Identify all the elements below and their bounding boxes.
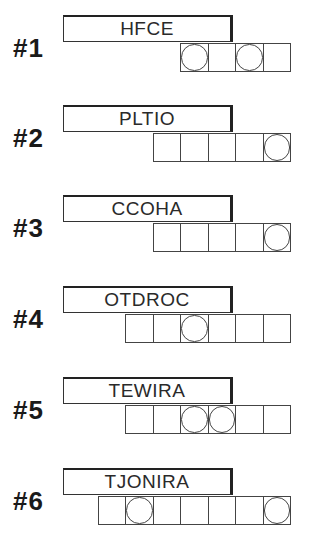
- puzzle-3: #3 CCOHA: [0, 195, 311, 255]
- answer-cell[interactable]: [153, 405, 182, 434]
- answer-cell-circled[interactable]: [125, 496, 154, 525]
- puzzle-1: #1 HFCE: [0, 15, 311, 75]
- answer-cell[interactable]: [263, 405, 292, 434]
- answer-cells: [180, 43, 291, 72]
- puzzle-4: #4 OTDROC: [0, 286, 311, 346]
- answer-cell-circled[interactable]: [180, 43, 209, 72]
- answer-cell[interactable]: [153, 133, 182, 162]
- answer-cell[interactable]: [153, 496, 182, 525]
- answer-cell[interactable]: [180, 496, 209, 525]
- circle-marker-icon: [181, 44, 208, 71]
- answer-cell-circled[interactable]: [263, 223, 292, 252]
- answer-cell[interactable]: [208, 133, 237, 162]
- circle-marker-icon: [181, 406, 208, 433]
- answer-cell[interactable]: [235, 314, 264, 343]
- puzzle-number: #1: [13, 35, 44, 61]
- circle-marker-icon: [126, 497, 153, 524]
- answer-cell-circled[interactable]: [208, 405, 237, 434]
- answer-cells: [125, 405, 291, 434]
- puzzle-number: #2: [13, 125, 44, 151]
- answer-cell-circled[interactable]: [235, 43, 264, 72]
- circle-marker-icon: [264, 497, 291, 524]
- answer-cell-circled[interactable]: [263, 496, 292, 525]
- answer-cell-circled[interactable]: [263, 133, 292, 162]
- scrambled-word: OTDROC: [63, 286, 233, 313]
- circle-marker-icon: [209, 406, 236, 433]
- answer-cell[interactable]: [235, 223, 264, 252]
- circle-marker-icon: [236, 44, 263, 71]
- answer-cell[interactable]: [208, 223, 237, 252]
- puzzle-2: #2 PLTIO: [0, 105, 311, 165]
- answer-cell[interactable]: [235, 133, 264, 162]
- puzzle-5: #5 TEWIRA: [0, 377, 311, 437]
- puzzle-6: #6 TJONIRA: [0, 468, 311, 528]
- puzzle-number: #4: [13, 306, 44, 332]
- scrambled-word: PLTIO: [63, 105, 233, 132]
- circle-marker-icon: [264, 134, 291, 161]
- answer-cell[interactable]: [153, 314, 182, 343]
- answer-cell[interactable]: [208, 43, 237, 72]
- answer-cells: [98, 496, 292, 525]
- puzzle-number: #5: [13, 397, 44, 423]
- answer-cell-circled[interactable]: [180, 405, 209, 434]
- scrambled-word: TJONIRA: [63, 468, 233, 495]
- answer-cell[interactable]: [125, 405, 154, 434]
- answer-cell[interactable]: [208, 314, 237, 343]
- answer-cell[interactable]: [180, 223, 209, 252]
- scrambled-word: TEWIRA: [63, 377, 233, 404]
- scrambled-word: CCOHA: [63, 195, 233, 222]
- answer-cell[interactable]: [263, 314, 292, 343]
- answer-cell[interactable]: [125, 314, 154, 343]
- answer-cell[interactable]: [235, 405, 264, 434]
- puzzle-number: #3: [13, 215, 44, 241]
- answer-cells: [153, 223, 292, 252]
- answer-cell[interactable]: [263, 43, 292, 72]
- circle-marker-icon: [264, 224, 291, 251]
- answer-cells: [125, 314, 291, 343]
- answer-cell[interactable]: [235, 496, 264, 525]
- circle-marker-icon: [181, 315, 208, 342]
- answer-cell[interactable]: [153, 223, 182, 252]
- answer-cell[interactable]: [180, 133, 209, 162]
- answer-cell[interactable]: [208, 496, 237, 525]
- answer-cell-circled[interactable]: [180, 314, 209, 343]
- scrambled-word: HFCE: [63, 15, 233, 42]
- answer-cells: [153, 133, 292, 162]
- answer-cell[interactable]: [98, 496, 127, 525]
- puzzle-number: #6: [13, 488, 44, 514]
